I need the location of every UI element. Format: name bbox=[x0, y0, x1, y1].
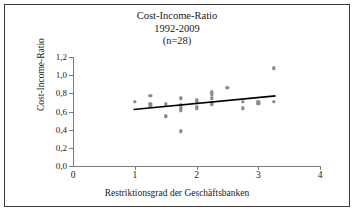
y-tick-label: 0,4 bbox=[56, 125, 67, 135]
chart-title-line-2: 1992-2009 bbox=[0, 23, 354, 36]
y-tick-label: 0,8 bbox=[56, 88, 67, 98]
x-tick-label: 1 bbox=[132, 170, 137, 180]
y-tick-label: 0,6 bbox=[56, 107, 67, 117]
x-tick-label: 3 bbox=[256, 170, 261, 180]
y-tick-label: 0,0 bbox=[56, 161, 67, 171]
x-tick-label: 4 bbox=[318, 170, 323, 180]
x-tick-label: 0 bbox=[71, 170, 76, 180]
y-tick-mark bbox=[69, 166, 73, 167]
chart-title-line-3: (n=28) bbox=[0, 35, 354, 48]
x-tick-label: 2 bbox=[194, 170, 199, 180]
plot-area: 0,00,20,40,60,81,01,2 01234 bbox=[73, 57, 320, 166]
y-tick-label: 1,2 bbox=[56, 52, 67, 62]
y-tick-label: 1,0 bbox=[56, 70, 67, 80]
chart-title: Cost-Income-Ratio 1992-2009 (n=28) bbox=[0, 10, 354, 48]
figure-container: Cost-Income-Ratio 1992-2009 (n=28) Cost-… bbox=[0, 0, 354, 211]
trendline bbox=[73, 57, 320, 166]
y-tick-label: 0,2 bbox=[56, 143, 67, 153]
x-axis-title: Restriktionsgrad der Geschäftsbanken bbox=[0, 188, 354, 198]
y-axis-title: Cost-Income-Ratio bbox=[36, 38, 46, 111]
chart-title-line-1: Cost-Income-Ratio bbox=[0, 10, 354, 23]
